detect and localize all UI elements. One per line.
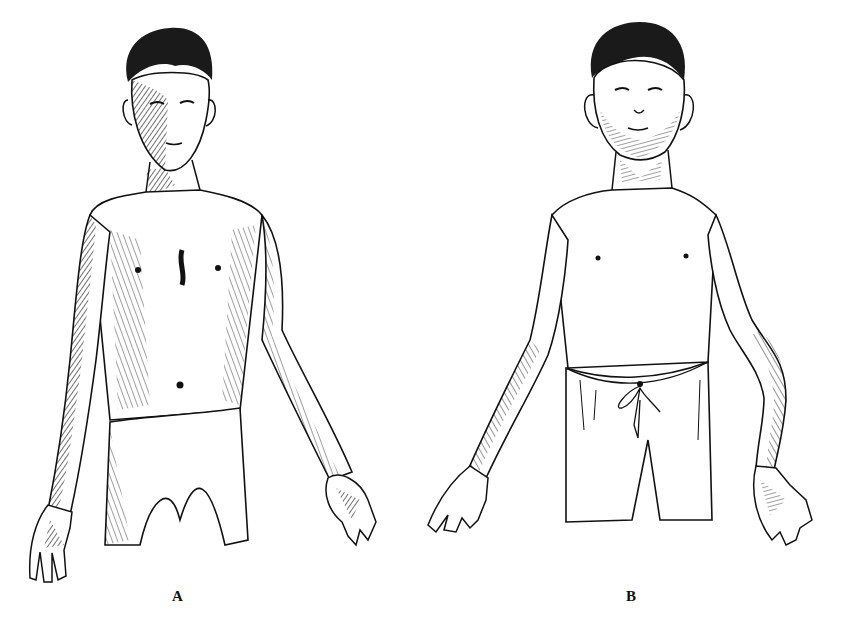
- panel-label-a: A: [172, 588, 183, 605]
- boy-b-illustration: [410, 0, 844, 636]
- boy-a-illustration: [0, 0, 400, 636]
- panel-label-b: B: [626, 588, 636, 605]
- figure-panel-b: B: [410, 0, 844, 636]
- figure-panel-a: A: [0, 0, 400, 636]
